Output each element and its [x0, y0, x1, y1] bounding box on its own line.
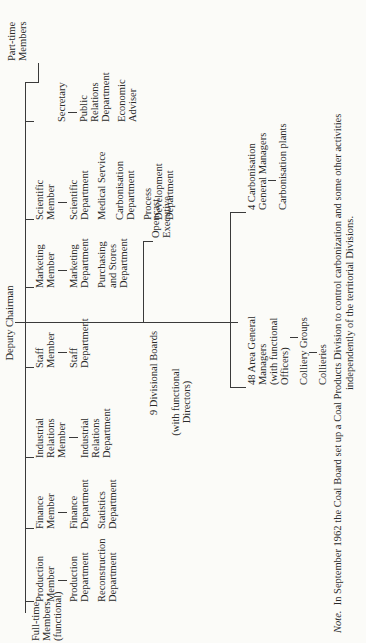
- connector: [25, 528, 34, 529]
- connector: [58, 512, 67, 513]
- footnote: Note. In September 1962 the Coal Board s…: [332, 114, 344, 633]
- connector: [143, 241, 153, 242]
- connector: [58, 270, 67, 271]
- connector: [143, 241, 144, 323]
- public-relations-department: Public Relations Department: [78, 72, 111, 122]
- note-line-2: independently of the territorial Divisio…: [344, 3, 356, 603]
- connector: [68, 112, 77, 113]
- connector: [25, 219, 34, 220]
- staff-member: Staff Member: [34, 332, 56, 368]
- divisional-boards: 9 Divisional Boards: [148, 331, 159, 415]
- staff-department: Staff Department: [68, 318, 90, 368]
- connector: [25, 287, 34, 288]
- connector: [230, 387, 246, 388]
- deputy-chairman: Deputy Chairman: [4, 263, 15, 383]
- connector: [38, 63, 39, 83]
- note-label: Note.: [332, 611, 343, 633]
- divisional-boards-note: (with functional Directors): [170, 357, 192, 447]
- connector: [25, 82, 39, 83]
- connector: [58, 202, 67, 203]
- scientific-member: Scientific Member: [34, 180, 56, 220]
- secretary: Secretary: [56, 82, 67, 122]
- connector: [25, 457, 34, 458]
- marketing-department: Marketing Department: [68, 238, 90, 288]
- connector: [25, 83, 26, 613]
- connector: [25, 367, 34, 368]
- economic-adviser: Economic Adviser: [116, 79, 138, 122]
- carbonisation-department: Carbonisation Department: [114, 161, 136, 220]
- connector: [25, 121, 34, 122]
- connector: [25, 601, 34, 602]
- connector: [58, 352, 67, 353]
- area-general-managers: 48 Area General Managers (with functiona…: [246, 316, 290, 385]
- carbonisation-plants: Carbonisation plants: [277, 123, 288, 210]
- connector: [290, 337, 298, 338]
- opencast-executive: Opencast Executive: [150, 196, 172, 238]
- reconstruction-department: Reconstruction Department: [96, 538, 118, 602]
- industrial-relations-department: Industrial Relations Department: [79, 408, 112, 458]
- purchasing-stores-department: Purchasing and Stores Department: [96, 238, 129, 288]
- org-chart: Deputy Chairman Full-time Members (funct…: [0, 0, 366, 643]
- collieries: Collieries: [317, 344, 328, 385]
- production-member: Production Member: [34, 556, 56, 602]
- marketing-member: Marketing Member: [34, 244, 56, 288]
- connector: [230, 212, 231, 388]
- connector: [58, 580, 67, 581]
- colliery-groups: Colliery Groups: [298, 317, 309, 385]
- connector: [309, 352, 317, 353]
- connector: [15, 322, 25, 323]
- statistics-department: Statistics Department: [96, 479, 118, 529]
- production-department: Production Department: [68, 552, 90, 602]
- industrial-relations-member: Industrial Relations Member: [34, 418, 67, 458]
- part-time-members-label: Part-time Members: [6, 21, 28, 61]
- connector: [230, 212, 246, 213]
- finance-department: Finance Department: [68, 479, 90, 529]
- connector: [69, 437, 78, 438]
- finance-member: Finance Member: [34, 493, 56, 529]
- connector: [268, 180, 276, 181]
- connector: [178, 322, 238, 323]
- note-line-1: In September 1962 the Coal Board set up …: [332, 114, 343, 606]
- carbonisation-general-managers: 4 Carbonisation General Managers: [246, 133, 268, 210]
- scientific-department: Scientific Department: [68, 170, 90, 220]
- connector: [25, 322, 178, 323]
- medical-service: Medical Service: [96, 151, 107, 220]
